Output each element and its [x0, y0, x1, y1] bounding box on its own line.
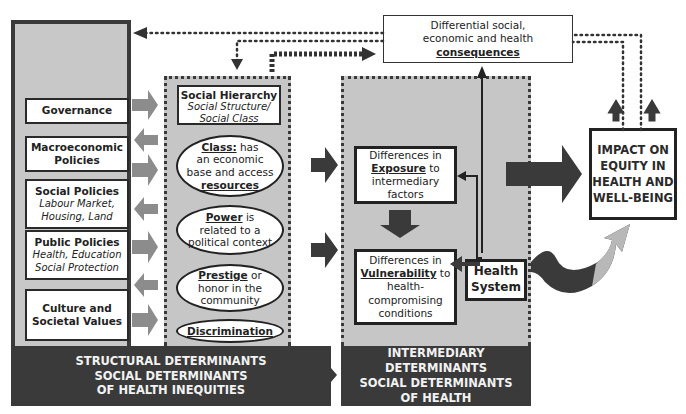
curved-arrow-light-icon: [592, 224, 630, 286]
class-ellipse: Class: has an economic base and access r…: [176, 135, 284, 197]
structural-determinants-label: STRUCTURAL DETERMINANTS SOCIAL DETERMINA…: [11, 346, 331, 406]
discrimination-key: Discrimination: [178, 325, 282, 338]
structural-hierarchy-arrows: [132, 90, 158, 336]
health-system-line-1: Health: [468, 264, 524, 280]
vulnerability-after-key: to: [436, 267, 450, 279]
macroeconomic-policies-label: Macroeconomic Policies: [27, 141, 127, 167]
curved-arrow-icon: [531, 224, 630, 293]
resources-key: resources: [178, 179, 282, 192]
arrow-right-icon: [132, 231, 158, 263]
power-text: is: [243, 211, 255, 223]
arrow-left-icon: [134, 128, 158, 152]
vulnerability-key: Vulnerability: [361, 267, 437, 279]
exposure-line-3: intermediary: [357, 175, 454, 188]
arrow-right-icon: [132, 154, 158, 186]
intermediary-label-line-2: SOCIAL DETERMINANTS: [341, 376, 531, 391]
structural-label-line-1: STRUCTURAL DETERMINANTS: [11, 354, 331, 369]
consequences-line-1: Differential social,: [384, 19, 572, 33]
social-hierarchy-panel: Social Hierarchy Social Structure/ Socia…: [164, 76, 291, 346]
exposure-box: Differences in Exposure to intermediary …: [354, 146, 457, 204]
health-system-box: Health System: [465, 259, 527, 301]
arrow-down-icon: [231, 59, 243, 70]
culture-values-label: Culture and Societal Values: [27, 302, 127, 328]
intermediary-label-line-1: INTERMEDIARY DETERMINANTS: [341, 346, 531, 376]
consequences-box: Differential social, economic and health…: [383, 15, 573, 63]
exposure-after-key: to: [426, 162, 440, 174]
impact-line-4: WELL-BEING: [592, 190, 674, 206]
social-policies-box: Social Policies Labour Market, Housing, …: [25, 179, 129, 229]
prestige-key: Prestige: [198, 269, 248, 281]
intermediary-determinants-label: INTERMEDIARY DETERMINANTS SOCIAL DETERMI…: [341, 346, 531, 406]
structural-label-line-3: OF HEALTH INEQUITIES: [11, 383, 331, 398]
structural-determinants-panel: Governance Macroeconomic Policies Social…: [11, 20, 131, 346]
structural-label-line-2: SOCIAL DETERMINANTS: [11, 369, 331, 384]
governance-box: Governance: [25, 98, 129, 124]
power-ellipse: Power is related to a political context: [176, 205, 284, 255]
prestige-text-3: community: [178, 294, 282, 307]
arrow-up-icon: [610, 102, 622, 120]
exposure-key: Exposure: [371, 162, 426, 174]
class-text-3: base and access: [178, 166, 282, 179]
arrow-left-icon: [134, 197, 158, 221]
arrow-right-icon: [311, 147, 338, 183]
intermediary-label-line-3: OF HEALTH: [341, 391, 531, 406]
macroeconomic-policies-box: Macroeconomic Policies: [25, 136, 129, 172]
power-text-3: political context: [178, 236, 282, 249]
governance-label: Governance: [27, 104, 127, 117]
exposure-line-1: Differences in: [357, 149, 454, 162]
social-hierarchy-title: Social Hierarchy: [179, 89, 279, 101]
consequences-line-2: economic and health: [384, 32, 572, 46]
power-text-2: related to a: [178, 224, 282, 237]
arrow-up-icon: [646, 102, 658, 120]
discrimination-ellipse: Discrimination: [176, 319, 284, 343]
culture-values-box: Culture and Societal Values: [25, 289, 129, 341]
health-system-line-2: System: [468, 280, 524, 296]
impact-line-1: IMPACT ON: [592, 142, 674, 158]
impact-line-2: EQUITY IN: [592, 158, 674, 174]
prestige-text: or: [248, 269, 262, 281]
hierarchy-consequences-dashed: [272, 54, 362, 72]
exposure-line-4: factors: [357, 188, 454, 201]
social-hierarchy-subtitle-2: Social Class: [179, 113, 279, 125]
vulnerability-line-3: health-: [357, 280, 454, 293]
arrow-right-icon: [132, 90, 158, 120]
public-policies-subtitle: Health, Education Social Protection: [27, 249, 127, 274]
arrow-right-icon: [311, 232, 338, 268]
power-key: Power: [206, 211, 243, 223]
arrow-right-icon: [362, 47, 376, 61]
vulnerability-line-5: conditions: [357, 307, 454, 320]
social-hierarchy-title-box: Social Hierarchy Social Structure/ Socia…: [177, 85, 281, 125]
public-policies-label: Public Policies: [27, 236, 127, 249]
prestige-text-2: honor in the: [178, 282, 282, 295]
consequences-key: consequences: [384, 46, 572, 60]
arrow-left-icon: [133, 27, 147, 39]
vulnerability-line-1: Differences in: [357, 254, 454, 267]
social-policies-label: Social Policies: [27, 185, 127, 198]
impact-line-3: HEALTH AND: [592, 174, 674, 190]
social-policies-subtitle: Labour Market, Housing, Land: [27, 198, 127, 223]
arrow-left-icon: [134, 273, 158, 297]
prestige-ellipse: Prestige or honor in the community: [176, 264, 284, 312]
intermediary-determinants-panel: Differences in Exposure to intermediary …: [341, 76, 531, 346]
class-text: has: [237, 141, 259, 153]
class-text-2: an economic: [178, 153, 282, 166]
class-key: Class:: [202, 141, 237, 153]
impact-on-equity-box: IMPACT ON EQUITY IN HEALTH AND WELL-BEIN…: [589, 128, 677, 220]
vulnerability-line-4: compromising: [357, 294, 454, 307]
vulnerability-box: Differences in Vulnerability to health- …: [354, 249, 457, 325]
social-hierarchy-subtitle-1: Social Structure/: [179, 101, 279, 113]
arrow-right-icon: [132, 304, 158, 336]
public-policies-box: Public Policies Health, Education Social…: [25, 230, 129, 280]
